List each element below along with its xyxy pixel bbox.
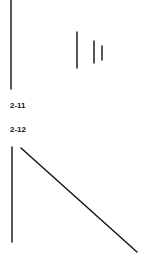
figure-2-12 xyxy=(12,147,137,252)
diagonal-line xyxy=(21,148,137,252)
figure-label-2-11: 2-11 xyxy=(10,101,26,110)
figure-label-2-12: 2-12 xyxy=(10,125,26,134)
figure-2-11 xyxy=(11,0,102,89)
